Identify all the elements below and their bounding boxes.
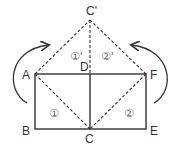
label-c: C — [85, 132, 94, 146]
region-2: ② — [124, 107, 134, 120]
label-c-prime: C' — [86, 4, 97, 18]
region-1-prime: ①' — [70, 50, 83, 63]
region-1: ① — [49, 107, 59, 120]
segment-fc — [90, 74, 146, 129]
segment-fcp — [90, 20, 146, 74]
label-e: E — [150, 124, 158, 138]
segment-ac — [35, 74, 90, 129]
region-2-prime: ②' — [101, 50, 114, 63]
rectangle-abef — [35, 74, 146, 129]
label-a: A — [22, 68, 30, 82]
geometry-diagram: C' A D F B C E ① ② ①' ②' — [0, 0, 176, 153]
label-b: B — [22, 124, 30, 138]
label-f: F — [150, 68, 157, 82]
